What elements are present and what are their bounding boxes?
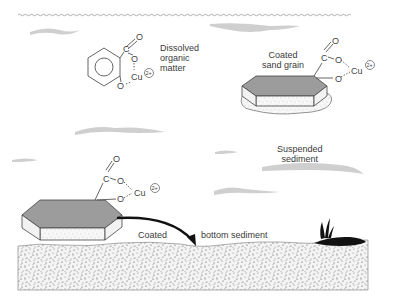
label-bottom-sediment: bottom sediment [201,230,268,240]
grain-top-face [22,200,122,228]
carbon-atom-label: C [321,53,328,63]
copper-charge-label: 2+ [146,70,152,76]
carbon-atom-label: C [103,174,110,184]
label-line: Suspended [277,144,323,154]
current-streak [12,159,38,163]
dissolved-organic-molecule [88,39,137,86]
oxygen-atom-label: O [136,32,143,42]
label-line: Dissolved [160,43,199,53]
coated-sediment-grain [22,161,132,240]
oxygen-atom-label: O [117,81,124,91]
benzene-ring [88,48,120,86]
label-line: Coated [262,50,304,60]
current-streak [214,187,280,195]
label-line: sand grain [262,60,304,70]
oxygen-atom-label: O [113,154,120,164]
label-suspended-sediment: Suspended sediment [277,144,323,164]
label-line: sediment [277,154,323,164]
label-coated-sand-grain: Coated sand grain [262,50,304,70]
copper-atom-label: Cu [351,66,363,76]
current-streak [210,23,300,32]
copper-charge-label: 2+ [367,62,373,68]
copper-charge-label: 2+ [152,185,158,191]
aquatic-vegetation-icon [314,218,366,246]
label-dissolved-organic-matter: Dissolved organic matter [160,43,199,73]
benzene-inner-circle [95,58,113,76]
bottom-sediment [18,240,368,290]
oxygen-atom-label: O [335,55,342,65]
oxygen-atom-label: O [335,74,342,84]
oxygen-atom-label: O [117,194,124,204]
carbon-atom-label: C [123,44,130,54]
grain-top-face [242,76,327,96]
current-streak [262,163,364,174]
oxygen-atom-label: O [131,54,138,64]
copper-atom-label: Cu [134,188,146,198]
oxygen-atom-label: O [332,36,339,46]
label-coated: Coated [138,230,167,240]
oxygen-atom-label: O [117,176,124,186]
current-streak [30,28,80,35]
copper-atom-label: Cu [131,72,143,82]
grain-front-face [256,96,314,106]
grain-front-face [40,228,105,240]
label-line: matter [160,63,199,73]
current-streak [215,151,238,155]
label-line: organic [160,53,199,63]
current-streak [75,127,165,135]
water-surface-line [18,14,351,16]
